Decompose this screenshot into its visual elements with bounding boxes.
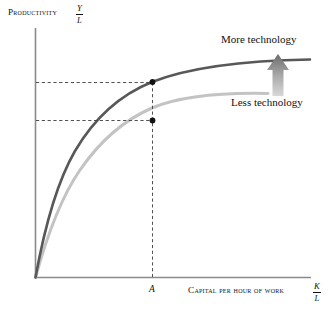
chart-canvas bbox=[0, 0, 332, 314]
less-technology-label: Less technology bbox=[231, 97, 303, 108]
y-axis-variable-fraction: Y L bbox=[76, 4, 83, 25]
x-axis-title: Capital per hour of work bbox=[188, 286, 284, 295]
x-axis-denominator: L bbox=[313, 293, 321, 303]
x-tick-label-a: A bbox=[149, 285, 155, 295]
more-technology-curve bbox=[36, 60, 311, 278]
y-axis-numerator: Y bbox=[76, 4, 83, 14]
y-axis-denominator: L bbox=[76, 15, 83, 25]
marker-less-technology bbox=[150, 118, 156, 124]
x-axis-variable-fraction: K L bbox=[313, 282, 321, 303]
more-technology-label: More technology bbox=[221, 34, 296, 45]
y-axis-title: Productivity bbox=[8, 8, 57, 17]
x-axis-numerator: K bbox=[313, 282, 321, 292]
productivity-capital-chart: Productivity Y L Capital per hour of wor… bbox=[0, 0, 332, 314]
marker-more-technology bbox=[150, 79, 156, 85]
